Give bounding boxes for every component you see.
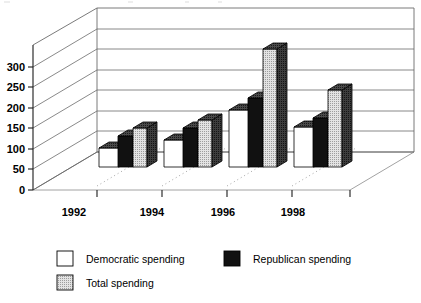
x-category-label: 1996 bbox=[211, 206, 235, 218]
x-category-label: 1998 bbox=[281, 206, 305, 218]
y-axis-tick-labels: 0 50 100 150 200 250 300 bbox=[7, 61, 25, 196]
y-tick-label: 300 bbox=[7, 61, 25, 73]
legend-swatch-democratic bbox=[57, 251, 73, 266]
legend-swatch-total bbox=[57, 275, 73, 290]
legend-label-republican: Republican spending bbox=[253, 253, 351, 265]
legend-swatch-republican bbox=[224, 251, 240, 266]
y-axis bbox=[28, 45, 33, 190]
x-axis bbox=[97, 190, 350, 197]
x-category-label: 1994 bbox=[140, 206, 165, 218]
legend-label-democratic: Democratic spending bbox=[86, 253, 185, 265]
y-tick-label: 250 bbox=[7, 81, 25, 93]
legend-label-total: Total spending bbox=[86, 277, 154, 289]
y-tick-label: 100 bbox=[7, 143, 25, 155]
y-tick-label: 200 bbox=[7, 102, 25, 114]
y-tick-label: 150 bbox=[7, 122, 25, 134]
bar-1996-total bbox=[263, 43, 287, 167]
bar-1992-total bbox=[133, 122, 157, 167]
y-tick-label: 50 bbox=[13, 163, 25, 175]
bar-chart-3d: 0 50 100 150 200 250 300 bbox=[0, 0, 421, 303]
bar-1994-total bbox=[198, 114, 222, 167]
chart-legend: Democratic spending Republican spending … bbox=[57, 251, 351, 290]
y-tick-label: 0 bbox=[19, 184, 25, 196]
x-category-label: 1992 bbox=[62, 206, 86, 218]
chart-container: 0 50 100 150 200 250 300 bbox=[0, 0, 421, 303]
bar-1998-total bbox=[328, 84, 352, 167]
grid-depth-connectors bbox=[33, 29, 97, 190]
plot-3d-frame bbox=[33, 8, 414, 190]
x-axis-category-labels: 1992 1994 1996 1998 bbox=[62, 206, 305, 218]
